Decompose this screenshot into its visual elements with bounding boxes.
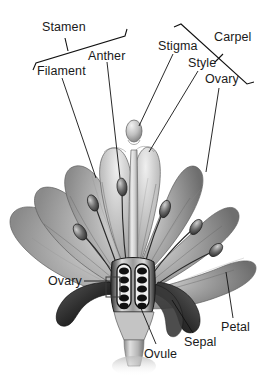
flower-illustration	[0, 0, 267, 375]
label-ovary-section: Ovary	[48, 275, 82, 288]
label-style: Style	[188, 57, 216, 70]
label-anther: Anther	[88, 50, 125, 63]
leader-stigma	[139, 54, 173, 126]
label-carpel: Carpel	[214, 31, 251, 44]
leader-ovary-top	[206, 88, 219, 172]
leader-style	[149, 71, 198, 152]
label-stamen: Stamen	[42, 21, 86, 34]
flower-anatomy-diagram: Stamen Anther Filament Stigma Style Carp…	[0, 0, 267, 375]
sepal-left	[56, 282, 114, 326]
stigma-head	[126, 120, 142, 142]
label-ovule: Ovule	[144, 348, 177, 361]
label-sepal: Sepal	[184, 336, 216, 349]
label-petal: Petal	[221, 321, 250, 334]
label-ovary-carpel: Ovary	[205, 73, 239, 86]
label-stigma: Stigma	[158, 40, 198, 53]
label-filament: Filament	[37, 65, 86, 78]
leader-filament	[62, 78, 96, 178]
